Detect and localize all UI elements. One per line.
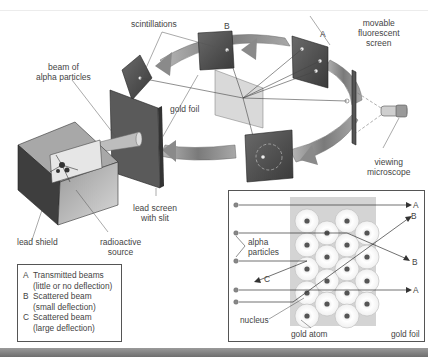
legend-item-a: ATransmitted beams <box>23 270 121 281</box>
inset-label-gold-atom: gold atom <box>291 329 327 339</box>
inset-label-b-upper: B <box>411 211 417 221</box>
label-gold-foil: gold foil <box>170 104 199 114</box>
label-radioactive-source: radioactive source <box>100 237 141 257</box>
legend-item-c: CScattered beam <box>23 312 121 323</box>
gold-foil-sheet <box>215 70 263 128</box>
viewing-microscope-icon <box>381 105 407 117</box>
inset-label-gold-foil: gold foil <box>391 329 420 339</box>
legend-box: ATransmitted beams (little or no deflect… <box>17 264 122 342</box>
atomic-scattering-inset: A B B A C alpha particles nucleus gold a… <box>228 190 425 342</box>
label-screen-b: B <box>224 21 230 31</box>
label-lead-screen-with-slit: lead screen with slit <box>133 203 177 223</box>
screen-lower <box>245 130 293 182</box>
label-beam-of-alpha-particles: beam of alpha particles <box>36 62 91 82</box>
movable-screen <box>352 70 356 145</box>
legend-item-b: BScattered beam <box>23 291 121 302</box>
ring-arc-right <box>325 60 362 105</box>
label-viewing-microscope: viewing microscope <box>367 157 410 177</box>
inset-label-a-top: A <box>413 200 419 210</box>
ring-arrow-1 <box>155 52 172 76</box>
label-lead-shield: lead shield <box>17 237 58 247</box>
label-scintillations: scintillations <box>131 19 177 29</box>
inset-label-alpha-particles: alpha particles <box>248 237 279 257</box>
screen-a <box>292 36 328 88</box>
lead-shield <box>18 122 118 225</box>
bottom-edge-bar <box>0 348 428 357</box>
inset-label-a-bottom: A <box>413 285 419 295</box>
ring-arrow-3 <box>162 140 176 162</box>
ring-arc-front-right <box>290 115 358 162</box>
inset-label-c: C <box>264 274 270 284</box>
alpha-brace <box>236 236 245 257</box>
inset-label-b-lower: B <box>412 257 418 267</box>
alpha-particles <box>234 203 239 305</box>
label-movable-screen: movable fluorescent screen <box>358 18 400 48</box>
screen-left <box>122 55 152 100</box>
label-screen-a: A <box>320 29 326 39</box>
inset-label-nucleus: nucleus <box>240 315 269 325</box>
